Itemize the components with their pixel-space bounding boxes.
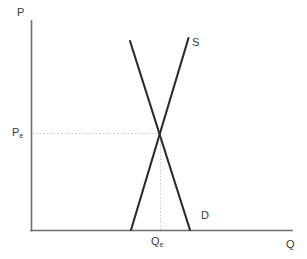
chart-canvas <box>0 0 307 259</box>
demand-curve-label: D <box>201 210 209 221</box>
supply-demand-chart: P Q S D Pe Qe <box>0 0 307 259</box>
equilibrium-quantity-label-base: Q <box>151 235 160 247</box>
equilibrium-quantity-label-subscript: e <box>160 241 164 248</box>
y-axis-label: P <box>17 7 24 18</box>
supply-curve-label: S <box>192 37 199 48</box>
equilibrium-quantity-label: Qe <box>151 236 163 247</box>
equilibrium-price-label-subscript: e <box>19 132 23 139</box>
equilibrium-price-label: Pe <box>12 127 23 138</box>
x-axis-label: Q <box>286 239 295 250</box>
